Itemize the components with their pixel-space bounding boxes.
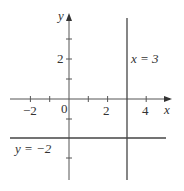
x-tick-label-0: 0 [61,101,68,116]
x-tick-label-2: 2 [103,103,110,118]
y-axis-arrow-icon [66,13,72,21]
x-tick-label-4: 4 [142,103,149,118]
y-axis-label: y [56,8,64,23]
vertical-line-label: x = 3 [130,51,159,66]
horizontal-line-label: y = −2 [13,141,52,156]
y-axis [66,13,72,180]
coordinate-plane-figure: y x −2 0 2 4 2 x = 3 y = −2 [0,0,184,191]
x-tick-label-neg2: −2 [23,103,37,118]
x-axis-label: x [163,102,170,117]
x-axis [10,96,172,102]
y-tick-label-2: 2 [57,51,64,66]
